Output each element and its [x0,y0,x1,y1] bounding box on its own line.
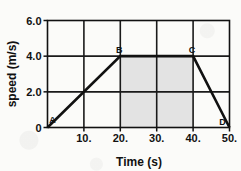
chart-figure: 02.04.06.0 10.20.30.40.50. ABCD Time (s)… [0,0,241,171]
svg-text:D: D [219,117,226,127]
svg-text:10.: 10. [76,132,91,144]
y-axis-tick-labels: 02.04.06.0 [26,15,41,134]
svg-text:6.0: 6.0 [26,15,41,27]
svg-text:A: A [49,115,56,125]
svg-text:30.: 30. [149,132,164,144]
speed-time-graph: 02.04.06.0 10.20.30.40.50. ABCD Time (s)… [0,0,241,171]
svg-text:C: C [189,45,196,55]
svg-text:0: 0 [35,122,41,134]
svg-text:4.0: 4.0 [26,50,41,62]
svg-text:2.0: 2.0 [26,86,41,98]
svg-text:50.: 50. [222,132,237,144]
x-axis-tick-labels: 10.20.30.40.50. [76,132,237,144]
svg-text:B: B [116,45,123,55]
y-axis-title: speed (m/s) [5,41,19,108]
x-axis-title: Time (s) [116,155,162,169]
svg-text:20.: 20. [113,132,128,144]
svg-text:40.: 40. [185,132,200,144]
